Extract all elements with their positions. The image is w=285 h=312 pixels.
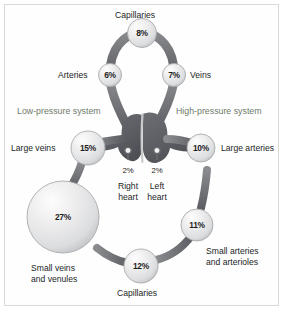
- value-pulmonary-arteries: 6%: [104, 70, 116, 80]
- label-low-pressure-system: Low-pressure system: [17, 106, 101, 117]
- label-high-pressure-system: High-pressure system: [176, 106, 262, 117]
- label-large-veins: Large veins: [11, 143, 55, 154]
- left-heart-marker-dot: [154, 147, 160, 153]
- label-capillaries-bottom: Capillaries: [117, 288, 157, 299]
- right-heart-marker-dot: [125, 147, 131, 153]
- value-small-arteries-and-arterioles: 11%: [189, 220, 205, 230]
- value-large-arteries: 10%: [193, 143, 209, 153]
- label-right-heart-line2: heart: [113, 192, 143, 203]
- value-systemic-capillaries: 12%: [133, 261, 149, 271]
- label-veins: Veins: [190, 70, 211, 81]
- label-left-heart-line2: heart: [143, 192, 171, 203]
- value-right-heart: 2%: [123, 166, 134, 175]
- label-small-veins-line2: and venules: [31, 274, 77, 285]
- label-small-arteries-line1: Small arteries: [206, 246, 259, 257]
- label-small-veins-line1: Small veins: [31, 263, 75, 274]
- label-arteries: Arteries: [58, 70, 88, 81]
- figure-root: 8% 6% 7% 15% 10% 27% 11% 12% 2% 2% Capil…: [0, 0, 285, 312]
- value-small-veins-and-venules: 27%: [55, 212, 71, 222]
- value-pulmonary-veins: 7%: [168, 70, 180, 80]
- value-pulmonary-capillaries: 8%: [136, 28, 148, 38]
- value-left-heart: 2%: [152, 166, 163, 175]
- value-large-veins: 15%: [80, 143, 96, 153]
- label-large-arteries: Large arteries: [221, 143, 274, 154]
- label-small-arteries-line2: and arterioles: [206, 257, 258, 268]
- label-capillaries-top: Capillaries: [115, 10, 155, 21]
- label-right-heart-line1: Right: [113, 181, 143, 192]
- label-left-heart-line1: Left: [143, 181, 171, 192]
